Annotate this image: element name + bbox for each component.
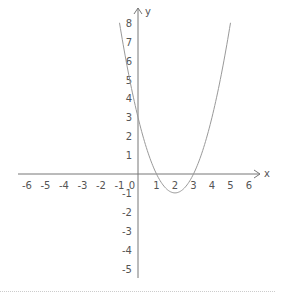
x-tick-label: 3 <box>190 180 196 191</box>
x-tick-label: -5 <box>41 180 51 191</box>
x-tick-label: 2 <box>172 180 178 191</box>
x-tick-label: 5 <box>227 180 233 191</box>
y-tick-label: 3 <box>126 112 132 123</box>
x-axis-label: x <box>264 168 270 179</box>
y-tick-label: 4 <box>126 93 132 104</box>
y-tick-label: 2 <box>126 131 132 142</box>
x-tick-label: -2 <box>96 180 106 191</box>
x-tick-label: 4 <box>209 180 215 191</box>
tick-labels: -6-5-4-3-2-10123456-5-4-3-2-112345678 <box>22 18 252 275</box>
y-tick-label: -1 <box>122 188 132 199</box>
y-tick-label: 1 <box>126 150 132 161</box>
axes <box>18 8 260 278</box>
y-tick-label: -2 <box>122 207 132 218</box>
x-tick-label: -4 <box>59 180 69 191</box>
y-tick-label: 7 <box>126 37 132 48</box>
x-tick-label: 6 <box>246 180 252 191</box>
x-tick-label: -6 <box>22 180 32 191</box>
y-tick-label: 8 <box>126 18 132 29</box>
y-axis-label: y <box>145 6 151 17</box>
y-tick-label: -5 <box>122 264 132 275</box>
x-tick-label: -3 <box>78 180 88 191</box>
coordinate-plane: -6-5-4-3-2-10123456-5-4-3-2-112345678 x … <box>0 0 286 303</box>
x-tick-label: 1 <box>153 180 159 191</box>
y-tick-label: -4 <box>122 245 132 256</box>
parabola-curve <box>120 23 231 193</box>
y-tick-label: -3 <box>122 226 132 237</box>
